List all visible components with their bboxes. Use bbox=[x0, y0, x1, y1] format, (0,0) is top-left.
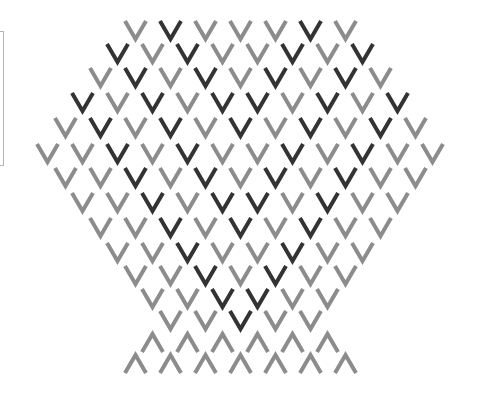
chevron-down-icon bbox=[140, 288, 165, 309]
chevron-down-icon bbox=[210, 143, 235, 164]
chevron-down-icon bbox=[175, 92, 200, 113]
chevron-down-icon bbox=[280, 43, 305, 64]
chevron-down-icon bbox=[123, 265, 148, 286]
chevron-down-icon bbox=[298, 310, 323, 331]
chevron-down-icon bbox=[70, 192, 95, 213]
chevron-up-icon bbox=[298, 353, 323, 374]
chevron-down-icon bbox=[350, 43, 375, 64]
chevron-down-icon bbox=[123, 167, 148, 188]
chevron-down-icon bbox=[280, 288, 305, 309]
chevron-up-icon bbox=[193, 353, 218, 374]
chevron-down-icon bbox=[298, 265, 323, 286]
chevron-down-icon bbox=[228, 265, 253, 286]
chevron-down-icon bbox=[140, 43, 165, 64]
chevron-down-icon bbox=[158, 167, 183, 188]
chevron-down-icon bbox=[228, 67, 253, 88]
chevron-down-icon bbox=[175, 288, 200, 309]
chevron-down-icon bbox=[228, 20, 253, 41]
chevron-down-icon bbox=[420, 143, 445, 164]
chevron-down-icon bbox=[263, 167, 288, 188]
chevron-down-icon bbox=[175, 242, 200, 263]
chevron-down-icon bbox=[70, 143, 95, 164]
chevron-down-icon bbox=[245, 288, 270, 309]
chevron-down-icon bbox=[35, 143, 60, 164]
chevron-down-icon bbox=[105, 242, 130, 263]
chevron-down-icon bbox=[263, 310, 288, 331]
chevron-down-icon bbox=[280, 143, 305, 164]
chevron-down-icon bbox=[158, 117, 183, 138]
chevron-down-icon bbox=[140, 143, 165, 164]
chevron-down-icon bbox=[210, 242, 235, 263]
chevron-down-icon bbox=[245, 242, 270, 263]
chevron-up-icon bbox=[140, 332, 165, 353]
chevron-down-icon bbox=[245, 192, 270, 213]
chevron-pattern bbox=[0, 0, 480, 401]
chevron-down-icon bbox=[368, 117, 393, 138]
chevron-down-icon bbox=[263, 67, 288, 88]
chevron-down-icon bbox=[88, 217, 113, 238]
chevron-down-icon bbox=[333, 217, 358, 238]
chevron-down-icon bbox=[350, 192, 375, 213]
chevron-down-icon bbox=[53, 167, 78, 188]
chevron-down-icon bbox=[333, 20, 358, 41]
chevron-down-icon bbox=[210, 43, 235, 64]
chevron-down-icon bbox=[263, 117, 288, 138]
chevron-down-icon bbox=[298, 217, 323, 238]
chevron-down-icon bbox=[333, 67, 358, 88]
chevron-down-icon bbox=[263, 20, 288, 41]
chevron-up-icon bbox=[175, 332, 200, 353]
chevron-down-icon bbox=[280, 242, 305, 263]
chevron-down-icon bbox=[193, 310, 218, 331]
chevron-down-icon bbox=[315, 43, 340, 64]
chevron-down-icon bbox=[403, 167, 428, 188]
chevron-up-icon bbox=[123, 353, 148, 374]
chevron-down-icon bbox=[228, 310, 253, 331]
chevron-down-icon bbox=[158, 67, 183, 88]
chevron-down-icon bbox=[193, 217, 218, 238]
chevron-down-icon bbox=[315, 143, 340, 164]
chevron-down-icon bbox=[280, 192, 305, 213]
chevron-down-icon bbox=[298, 67, 323, 88]
chevron-down-icon bbox=[175, 143, 200, 164]
chevron-down-icon bbox=[385, 192, 410, 213]
chevron-down-icon bbox=[245, 92, 270, 113]
chevron-down-icon bbox=[175, 43, 200, 64]
chevron-down-icon bbox=[105, 43, 130, 64]
chevron-down-icon bbox=[210, 192, 235, 213]
chevron-down-icon bbox=[70, 92, 95, 113]
chevron-down-icon bbox=[403, 117, 428, 138]
chevron-down-icon bbox=[333, 265, 358, 286]
chevron-down-icon bbox=[350, 92, 375, 113]
chevron-down-icon bbox=[193, 167, 218, 188]
chevron-down-icon bbox=[245, 43, 270, 64]
chevron-down-icon bbox=[263, 265, 288, 286]
chevron-down-icon bbox=[228, 167, 253, 188]
chevron-down-icon bbox=[210, 288, 235, 309]
chevron-up-icon bbox=[210, 332, 235, 353]
chevron-down-icon bbox=[350, 143, 375, 164]
chevron-up-icon bbox=[245, 332, 270, 353]
chevron-down-icon bbox=[263, 217, 288, 238]
chevron-down-icon bbox=[228, 217, 253, 238]
chevron-down-icon bbox=[315, 92, 340, 113]
chevron-down-icon bbox=[88, 117, 113, 138]
chevron-down-icon bbox=[193, 20, 218, 41]
chevron-down-icon bbox=[105, 192, 130, 213]
chevron-down-icon bbox=[175, 192, 200, 213]
chevron-down-icon bbox=[123, 67, 148, 88]
chevron-down-icon bbox=[140, 192, 165, 213]
chevron-up-icon bbox=[333, 353, 358, 374]
chevron-down-icon bbox=[333, 167, 358, 188]
chevron-down-icon bbox=[193, 265, 218, 286]
chevron-down-icon bbox=[105, 143, 130, 164]
chevron-down-icon bbox=[140, 92, 165, 113]
chevron-down-icon bbox=[158, 310, 183, 331]
chevron-down-icon bbox=[210, 92, 235, 113]
chevron-down-icon bbox=[123, 117, 148, 138]
chevron-down-icon bbox=[280, 92, 305, 113]
chevron-down-icon bbox=[315, 192, 340, 213]
chevron-down-icon bbox=[158, 217, 183, 238]
chevron-down-icon bbox=[298, 167, 323, 188]
chevron-up-icon bbox=[158, 353, 183, 374]
chevron-down-icon bbox=[88, 67, 113, 88]
